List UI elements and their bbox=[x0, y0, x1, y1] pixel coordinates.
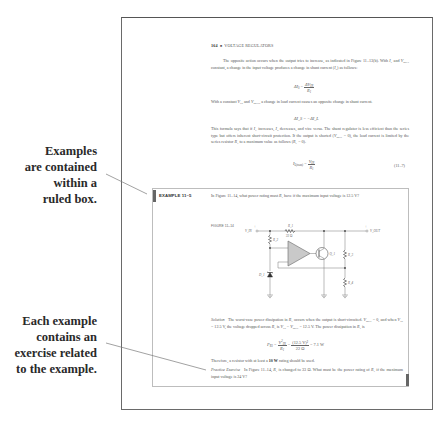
text: = 12.5 V, the voltage dropped across bbox=[211, 324, 272, 329]
callout-line: Examples bbox=[25, 143, 97, 159]
example-box-top-bar bbox=[153, 190, 156, 202]
text: is bbox=[361, 324, 365, 329]
var-vin: VIN bbox=[398, 317, 403, 322]
equation-4: PR1 = V2INR1 = (12.5 V)²22 Ω = 7.1 W bbox=[267, 340, 324, 351]
denominator: R1 bbox=[304, 88, 314, 93]
text: occurs when the output is short-circuite… bbox=[293, 317, 364, 322]
text: In Figure 11–14, what power rating must bbox=[211, 193, 279, 198]
callout-line: to the example. bbox=[15, 361, 97, 377]
text: constant, a change in the input voltage … bbox=[211, 65, 334, 70]
paragraph-2: With a constant VIN and VOUT, a change i… bbox=[211, 99, 409, 106]
text: = 12.5 V. The power dissipation in bbox=[298, 324, 356, 329]
var-vout: VOUT bbox=[251, 99, 259, 104]
text: rating should be used. bbox=[278, 358, 315, 363]
figure-label: FIGURE 11–14 bbox=[211, 224, 234, 228]
text: and bbox=[392, 58, 400, 63]
vout-terminal bbox=[366, 230, 368, 232]
callout-line: within a bbox=[25, 175, 97, 191]
d1-label: D_1 bbox=[258, 273, 265, 277]
page-number: 164 bbox=[211, 43, 218, 48]
conclusion-text: Therefore, a resistor with at least a 10… bbox=[211, 358, 403, 365]
r2-label: R_2 bbox=[272, 238, 279, 242]
circuit-diagram: V_IN + V_OUT + R_1 22 Ω R_2 D_1 Q_1 R_3 … bbox=[240, 222, 390, 304]
r3-resistor bbox=[344, 250, 347, 259]
equation-2: ΔI_S = −ΔI_L bbox=[294, 116, 319, 121]
junction-dot bbox=[269, 247, 271, 249]
fraction: (12.5 V)²22 Ω bbox=[291, 340, 309, 351]
vin-terminal bbox=[256, 230, 258, 232]
text: Therefore, a resistor with at least a bbox=[211, 358, 269, 363]
text: have if the maximum input voltage is 12.… bbox=[283, 193, 359, 198]
example-box-bottom-bar bbox=[406, 374, 409, 386]
denominator: 22 Ω bbox=[291, 346, 309, 351]
zener-diode-d1 bbox=[268, 273, 273, 278]
text: ) as follows: bbox=[337, 65, 357, 70]
eq-lhs: IL(max) bbox=[293, 161, 303, 166]
practice-exercise: Practice Exercise In Figure 11–14, R1 is… bbox=[211, 367, 403, 380]
text: is changed to 33 Ω. What must be the pow… bbox=[277, 367, 371, 372]
paragraph-1: The opposite action occurs when the outp… bbox=[211, 58, 409, 71]
r4-resistor bbox=[344, 278, 347, 287]
fraction: VINR1 bbox=[308, 159, 316, 170]
callout-exercise: Each example contains an exercise relate… bbox=[15, 313, 97, 377]
text: and bbox=[243, 99, 251, 104]
r1-label: R_1 bbox=[287, 224, 294, 228]
r3-label: R_3 bbox=[347, 253, 354, 257]
equation-number: (11–7) bbox=[394, 163, 405, 168]
eq-lhs: ΔIS bbox=[294, 84, 299, 89]
vin-label: V_IN bbox=[245, 229, 253, 233]
practice-label: Practice Exercise bbox=[211, 367, 240, 372]
vout-plus: + bbox=[365, 225, 367, 229]
example-label: EXAMPLE 11–5 bbox=[159, 193, 192, 198]
callout-line: ruled box. bbox=[25, 191, 97, 207]
solution-text: Solution The worst-case power dissipatio… bbox=[211, 317, 403, 330]
eq-lhs: PR1 bbox=[267, 342, 273, 347]
bold-value: 10 W bbox=[269, 358, 278, 363]
var-vout: VOUT bbox=[401, 58, 409, 63]
text: , a change in load current causes an opp… bbox=[259, 99, 372, 104]
callout-line: contains an bbox=[15, 329, 97, 345]
op-amp bbox=[288, 241, 310, 266]
r4-label: R_4 bbox=[347, 281, 354, 285]
eq-result: = 7.1 W bbox=[310, 342, 324, 347]
header-separator-icon: ■ bbox=[220, 44, 222, 48]
text: The worst-case power dissipation in bbox=[228, 317, 289, 322]
vout-label: V_OUT bbox=[370, 229, 380, 233]
junction-dot bbox=[344, 230, 346, 232]
denominator: R1 bbox=[308, 165, 316, 170]
callout-line: Each example bbox=[15, 313, 97, 329]
text: to a maximum value as follows ( bbox=[238, 139, 293, 144]
callout-line: are contained bbox=[25, 159, 97, 175]
text: With a constant bbox=[211, 99, 238, 104]
text: In Figure 11–14, bbox=[244, 367, 273, 372]
r2-resistor bbox=[269, 235, 272, 244]
callout-line: exercise related bbox=[15, 345, 97, 361]
fraction: V2INR1 bbox=[278, 340, 287, 351]
var-vout: VOUT bbox=[334, 133, 342, 138]
paragraph-3: This formula says that if IL increases, … bbox=[211, 126, 409, 146]
equation-3: IL(max) = VINR1 bbox=[293, 159, 315, 170]
text: = 0). bbox=[297, 139, 306, 144]
r1-value: 22 Ω bbox=[286, 234, 293, 238]
junction-dot bbox=[344, 267, 346, 269]
junction-dot bbox=[323, 230, 325, 232]
transistor-q1 bbox=[316, 248, 328, 260]
equation-1: ΔIS = ΔVINR1 bbox=[294, 82, 314, 93]
callout-examples: Examples are contained within a ruled bo… bbox=[25, 143, 97, 207]
example-question: In Figure 11–14, what power rating must … bbox=[211, 193, 403, 200]
var-vout: VOUT bbox=[363, 317, 371, 322]
text: = 0, and when bbox=[372, 317, 398, 322]
running-header: 164 ■ VOLTAGE REGULATORS bbox=[211, 43, 273, 48]
text: This formula says that if bbox=[211, 126, 254, 131]
fraction: ΔVINR1 bbox=[304, 82, 314, 93]
text: increases, bbox=[257, 126, 276, 131]
solution-label: Solution bbox=[211, 317, 225, 322]
chapter-title: VOLTAGE REGULATORS bbox=[224, 43, 273, 48]
vin-plus: + bbox=[254, 225, 256, 229]
denominator: R1 bbox=[278, 346, 287, 351]
text: The opposite action occurs when the outp… bbox=[223, 58, 389, 63]
junction-dot bbox=[269, 230, 271, 232]
q1-label: Q_1 bbox=[330, 252, 336, 256]
